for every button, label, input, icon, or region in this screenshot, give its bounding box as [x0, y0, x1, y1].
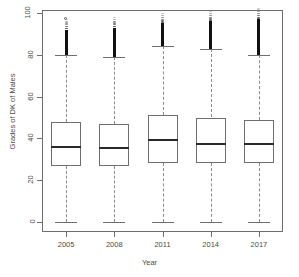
- outlier-cluster: [257, 19, 260, 55]
- whisker-lower: [259, 163, 260, 222]
- y-axis-title: Grades of DK of Males: [8, 52, 17, 172]
- boxplot-series: [0, 0, 299, 277]
- box-iqr: [244, 120, 274, 164]
- boxplot-figure: 020406080100 20052008201120142017 Grades…: [0, 0, 299, 277]
- whisker-cap-upper: [248, 55, 270, 56]
- whisker-upper: [259, 55, 260, 120]
- boxplot-box-group: [0, 0, 299, 277]
- outlier-point: [257, 13, 260, 14]
- outlier-point: [257, 8, 260, 9]
- outlier-point: [257, 15, 260, 16]
- median-line: [244, 143, 274, 145]
- whisker-cap-lower: [248, 222, 270, 223]
- outlier-point: [257, 11, 260, 12]
- x-axis-title: Year: [0, 258, 299, 267]
